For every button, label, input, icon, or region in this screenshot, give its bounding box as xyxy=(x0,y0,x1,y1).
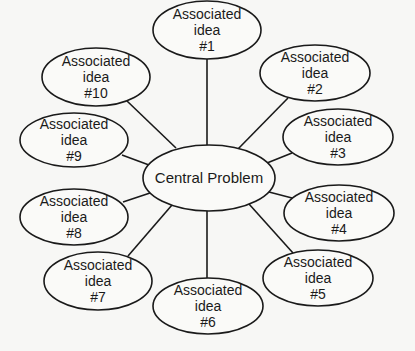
associated-idea-label-line: #2 xyxy=(307,81,323,97)
associated-idea-label-line: #6 xyxy=(200,314,216,330)
associated-idea-label-line: #7 xyxy=(90,289,106,305)
associated-idea-label-line: #4 xyxy=(331,221,347,237)
associated-idea-label-line: Associated xyxy=(40,193,108,209)
associated-idea-label-line: Associated xyxy=(40,116,108,132)
connector-line-10 xyxy=(127,101,176,148)
associated-idea-node-10: Associatedidea#10 xyxy=(42,48,150,106)
associated-idea-label-line: idea xyxy=(83,69,110,85)
connector-line-4 xyxy=(269,192,292,198)
associated-idea-node-3: Associatedidea#3 xyxy=(283,109,393,165)
associated-idea-node-4: Associatedidea#4 xyxy=(284,185,394,241)
associated-idea-label-line: idea xyxy=(325,129,352,145)
connector-line-3 xyxy=(267,153,292,163)
associated-idea-label-line: Associated xyxy=(173,6,241,22)
connector-line-7 xyxy=(128,205,172,256)
associated-idea-label-line: #9 xyxy=(66,148,82,164)
associated-idea-node-1: Associatedidea#1 xyxy=(153,1,261,59)
associated-idea-label-line: Associated xyxy=(305,189,373,205)
associated-idea-label-line: idea xyxy=(305,270,332,286)
associated-idea-label-line: #8 xyxy=(66,225,82,241)
associated-idea-node-5: Associatedidea#5 xyxy=(263,250,373,306)
connector-line-2 xyxy=(238,98,288,149)
associated-idea-label-line: idea xyxy=(61,209,88,225)
associated-idea-label-line: #10 xyxy=(84,85,108,101)
associated-idea-label-line: Associated xyxy=(174,282,242,298)
associated-idea-label-line: #5 xyxy=(310,286,326,302)
associated-idea-label-line: idea xyxy=(61,132,88,148)
mind-map-diagram: Central Problem Associatedidea#1Associat… xyxy=(0,0,415,351)
associated-idea-node-8: Associatedidea#8 xyxy=(20,189,128,245)
associated-idea-node-6: Associatedidea#6 xyxy=(153,278,263,334)
connector-line-9 xyxy=(122,155,149,165)
associated-idea-label-line: Associated xyxy=(281,49,349,65)
associated-idea-label-line: Associated xyxy=(304,113,372,129)
connector-line-8 xyxy=(123,193,150,202)
associated-idea-label-line: Associated xyxy=(284,254,352,270)
associated-idea-label-line: #1 xyxy=(199,38,215,54)
associated-idea-node-7: Associatedidea#7 xyxy=(44,252,152,310)
associated-idea-label-line: idea xyxy=(85,273,112,289)
associated-idea-node-2: Associatedidea#2 xyxy=(260,45,370,101)
central-problem-node: Central Problem xyxy=(143,145,275,211)
associated-idea-label-line: idea xyxy=(326,205,353,221)
associated-idea-label-line: idea xyxy=(302,65,329,81)
associated-idea-label-line: #3 xyxy=(330,145,346,161)
central-problem-label: Central Problem xyxy=(155,169,263,186)
associated-idea-label-line: Associated xyxy=(64,257,132,273)
associated-idea-label-line: idea xyxy=(194,22,221,38)
associated-idea-node-9: Associatedidea#9 xyxy=(20,113,128,167)
associated-idea-label-line: Associated xyxy=(62,53,130,69)
associated-idea-label-line: idea xyxy=(195,298,222,314)
